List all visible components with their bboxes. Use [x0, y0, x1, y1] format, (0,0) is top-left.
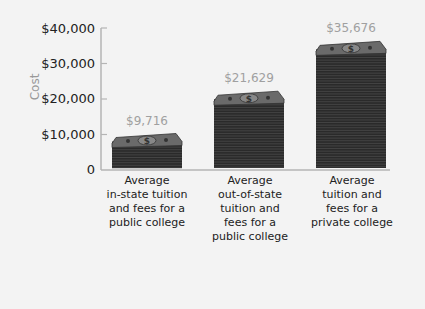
value-label: $9,716	[107, 114, 187, 128]
value-label: $21,629	[209, 71, 289, 85]
plot-area: $$$	[0, 0, 425, 309]
category-label: Average in-state tuition and fees for a …	[99, 174, 195, 230]
category-label: Average out-of-state tuition and fees fo…	[202, 174, 298, 244]
svg-text:$: $	[144, 136, 150, 146]
bar-money-stack: $	[316, 41, 386, 168]
bars: $$$	[112, 41, 386, 168]
bar-money-stack: $	[214, 91, 284, 168]
value-label: $35,676	[311, 21, 391, 35]
chart: Cost $40,000 $30,000 $20,000 $10,000 0 $…	[0, 0, 425, 309]
svg-text:$: $	[246, 94, 252, 104]
category-label: Average tuition and fees for a private c…	[304, 174, 400, 230]
svg-text:$: $	[348, 44, 354, 54]
bar-money-stack: $	[112, 134, 182, 168]
